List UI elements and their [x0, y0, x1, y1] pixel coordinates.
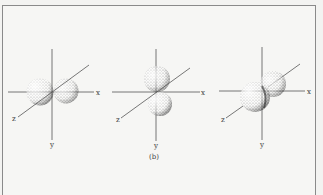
z-axis-label: z [12, 115, 16, 123]
pz-orbital-panel: x y z [219, 47, 311, 149]
lobe-front [240, 82, 270, 112]
lobe [144, 66, 170, 92]
x-axis-label: x [307, 88, 311, 96]
lobe [27, 79, 54, 106]
z-axis-front [226, 106, 243, 118]
y-axis-label: y [259, 141, 264, 149]
y-axis-label: y [153, 142, 158, 150]
y-axis-label: y [49, 141, 54, 149]
figure-caption: (b) [149, 153, 159, 161]
z-axis-label: z [116, 116, 120, 124]
py-orbital-panel: x y z [112, 49, 205, 150]
x-axis-label: x [96, 89, 100, 97]
px-orbital-panel: x y z [8, 49, 100, 149]
z-axis-label: z [221, 116, 225, 124]
x-axis-label: x [201, 89, 205, 97]
orbital-diagram: x y z x y z x [0, 0, 323, 195]
